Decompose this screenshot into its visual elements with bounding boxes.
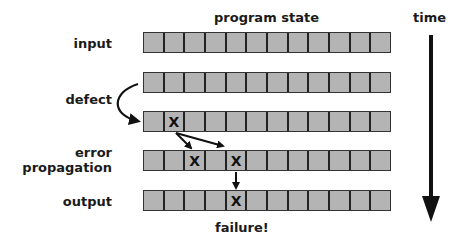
time-arrow-icon — [422, 35, 440, 222]
defect-curved-arrow-icon — [118, 84, 138, 121]
arrows-overlay — [0, 0, 466, 245]
